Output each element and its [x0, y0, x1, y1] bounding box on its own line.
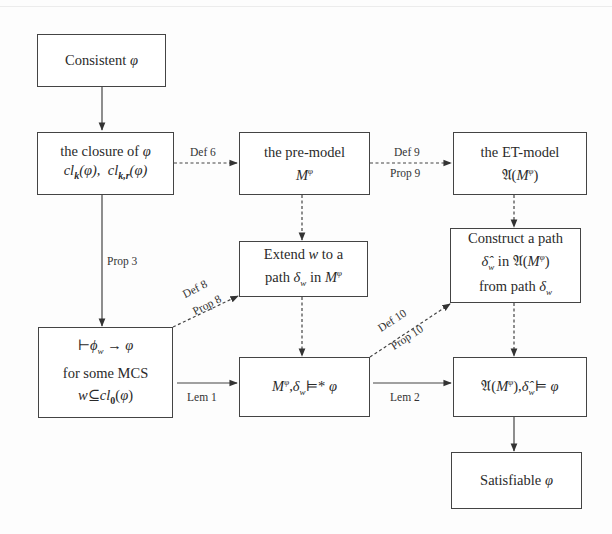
node-etmodel: the ET-model 𝔄(Mφ) — [453, 132, 587, 195]
etmodel-sat-text: 𝔄(Mφ),δ̂w⊨ φ — [481, 373, 558, 402]
mcs-line-1: ⊢ϕw → φ — [78, 334, 134, 362]
node-etmodel-sat: 𝔄(Mφ),δ̂w⊨ φ — [453, 357, 587, 417]
premodel-sat-text: Mφ,δw⊨* φ — [272, 373, 337, 402]
extend-line-1: Extend w to a — [264, 245, 343, 264]
etmodel-line-2: 𝔄(Mφ) — [502, 162, 539, 185]
node-consistent: Consistent φ — [37, 34, 166, 87]
node-premodel: the pre-model Mφ — [239, 132, 370, 195]
node-closure: the closure of φ clk(φ), clk,r(φ) — [37, 132, 174, 195]
construct-line-1: Construct a path — [468, 229, 563, 248]
mcs-line-2: for some MCS — [63, 362, 148, 384]
premodel-line-1: the pre-model — [264, 143, 345, 162]
node-premodel-sat: Mφ,δw⊨* φ — [239, 357, 370, 417]
etmodel-line-1: the ET-model — [481, 143, 560, 162]
node-consistent-text: Consistent φ — [65, 51, 138, 70]
label-prop3: Prop 3 — [107, 255, 137, 267]
node-mcs: ⊢ϕw → φ for some MCS w⊆cl0(φ) — [38, 327, 173, 418]
label-lem2: Lem 2 — [390, 391, 420, 403]
label-def9: Def 9 — [394, 146, 420, 158]
node-construct: Construct a path δ̂w in 𝔄(Mφ) from path … — [450, 228, 581, 303]
satisfiable-text: Satisfiable φ — [480, 471, 553, 490]
construct-line-3: from path δw — [479, 277, 552, 302]
label-def6: Def 6 — [190, 146, 216, 158]
node-extend: Extend w to a path δw in Mφ — [239, 241, 368, 297]
closure-line-2: clk(φ), clk,r(φ) — [64, 161, 148, 185]
mcs-line-3: w⊆cl0(φ) — [78, 384, 133, 412]
extend-line-2: path δw in Mφ — [265, 264, 342, 293]
label-prop9: Prop 9 — [390, 167, 420, 179]
premodel-line-2: Mφ — [296, 162, 313, 185]
closure-line-1: the closure of φ — [60, 142, 151, 161]
node-satisfiable: Satisfiable φ — [451, 452, 582, 509]
label-lem1: Lem 1 — [187, 391, 217, 403]
construct-line-2: δ̂w in 𝔄(Mφ) — [481, 248, 549, 277]
